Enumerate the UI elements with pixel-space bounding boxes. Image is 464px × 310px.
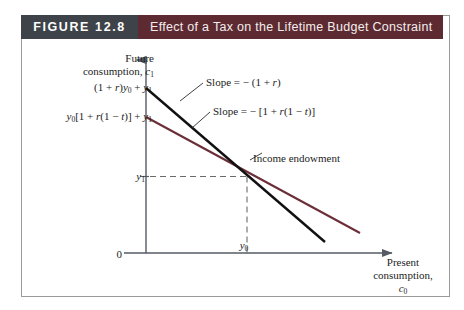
origin-label: 0 [110,248,122,261]
y-axis-title-line2: consumption, [83,65,143,77]
x-axis-tick-label: y0 [236,239,252,252]
budget-line-after-tax [146,117,360,233]
x-axis-title-subscript: 0 [404,287,408,296]
figure-container: FIGURE 12.8 Effect of a Tax on the Lifet… [0,0,464,310]
x-axis-title: Present consumption, c0 [360,256,446,295]
x-axis-title-line2: consumption, [373,269,433,281]
y-axis-tick-label: y1 [128,170,145,183]
y-intercept-label-no-tax: (1 + r)y0 + y1 [30,81,152,94]
slope-label-no-tax: Slope = − (1 + r) [206,76,281,89]
y-intercept-label-after-tax: y0[1 + r(1 − t)] + y1 [18,110,152,123]
leader-line-slope-no-tax [180,83,203,101]
x-axis-title-symbol: c [399,282,404,294]
leader-line-slope-after-tax [192,112,210,128]
y-axis-title-subscript: 1 [150,70,154,79]
y-axis-title-line1: Future [125,52,154,64]
x-axis-title-line1: Present [387,256,419,268]
y-axis-title: Future consumption, c1 [58,52,154,78]
slope-label-after-tax: Slope = − [1 + r(1 − t)] [213,105,315,118]
income-endowment-label: Income endowment [253,152,340,165]
